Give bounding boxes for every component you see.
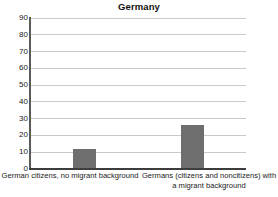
- y-axis-tick-labels: 0102030405060708090: [0, 18, 28, 169]
- x-axis-label-category-1: Germans (citizens and noncitizens) with …: [140, 171, 278, 191]
- gridline-20: [31, 135, 246, 136]
- y-axis-tick-30: 30: [2, 115, 28, 123]
- bar-category-0: [73, 149, 96, 169]
- y-axis-tick-90: 90: [2, 14, 28, 22]
- y-axis-tick-10: 10: [2, 148, 28, 156]
- y-axis-tick-50: 50: [2, 81, 28, 89]
- x-axis-label-category-0: German citizens, no migrant background: [0, 171, 140, 181]
- plot-area: [31, 18, 246, 169]
- y-axis-tick-80: 80: [2, 31, 28, 39]
- gridline-40: [31, 101, 246, 102]
- y-axis-tick-40: 40: [2, 98, 28, 106]
- gridline-80: [31, 34, 246, 35]
- x-axis-line: [29, 168, 246, 170]
- chart-title: Germany: [0, 1, 278, 13]
- x-axis-category-labels: German citizens, no migrant background G…: [0, 171, 278, 197]
- gridline-30: [31, 118, 246, 119]
- y-axis-tick-20: 20: [2, 131, 28, 139]
- chart-figure: Germany 0102030405060708090 German citiz…: [0, 0, 278, 197]
- gridline-90: [31, 18, 246, 19]
- gridline-60: [31, 68, 246, 69]
- gridline-70: [31, 51, 246, 52]
- bar-category-1: [181, 125, 204, 169]
- gridline-10: [31, 152, 246, 153]
- y-axis-tick-60: 60: [2, 64, 28, 72]
- gridline-50: [31, 85, 246, 86]
- y-axis-tick-70: 70: [2, 48, 28, 56]
